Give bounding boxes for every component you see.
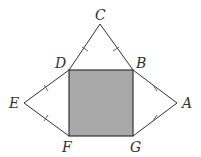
shaded-square: [69, 70, 133, 136]
label-f: F: [61, 139, 73, 155]
label-b: B: [135, 55, 146, 71]
triangle-top: [69, 24, 133, 70]
label-d: D: [54, 55, 66, 71]
label-g: G: [130, 139, 141, 155]
label-c: C: [95, 7, 106, 23]
geometry-diagram: C D B E A F G: [0, 0, 201, 157]
label-e: E: [8, 95, 19, 111]
label-a: A: [180, 95, 192, 111]
triangle-right: [133, 70, 177, 136]
triangle-left: [24, 70, 69, 136]
